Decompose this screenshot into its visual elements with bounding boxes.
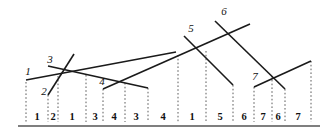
figure-canvas: 1234567 1213434156767: [0, 0, 331, 132]
interval-labels-group: 1213434156767: [34, 111, 300, 122]
line-segment-3: [48, 66, 148, 88]
interval-label: 6: [275, 111, 280, 122]
interval-label: 7: [295, 111, 300, 122]
interval-label: 3: [133, 111, 138, 122]
interval-label: 2: [50, 111, 55, 122]
interval-label: 1: [34, 111, 39, 122]
segment-label-5: 5: [188, 22, 194, 34]
segment-label-7: 7: [252, 70, 258, 82]
segment-label-6: 6: [221, 5, 227, 17]
line-segment-6: [215, 21, 285, 89]
interval-label: 5: [217, 111, 222, 122]
segment-labels-group: 1234567: [25, 5, 258, 97]
interval-label: 1: [189, 111, 194, 122]
segment-label-4: 4: [99, 75, 105, 87]
interval-label: 3: [92, 111, 97, 122]
line-segment-7: [254, 61, 311, 87]
interval-label: 4: [160, 111, 166, 122]
interval-label: 6: [241, 111, 246, 122]
segment-label-3: 3: [46, 53, 53, 65]
segments-group: [26, 21, 311, 95]
line-arrangement-figure: 1234567 1213434156767: [0, 0, 331, 132]
interval-label: 7: [260, 111, 265, 122]
line-segment-5: [184, 36, 233, 85]
interval-label: 4: [111, 111, 117, 122]
segment-label-1: 1: [25, 65, 31, 77]
interval-label: 1: [69, 111, 74, 122]
segment-label-2: 2: [41, 85, 47, 97]
